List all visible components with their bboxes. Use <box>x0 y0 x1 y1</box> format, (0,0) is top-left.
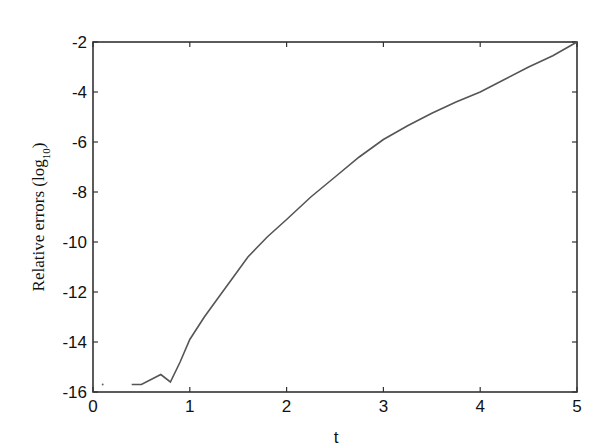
axes-frame <box>93 42 577 392</box>
x-tick-label: 5 <box>572 397 581 416</box>
plot-area <box>93 42 577 392</box>
x-tick-label: 0 <box>88 397 97 416</box>
annotations <box>102 384 104 386</box>
stray-dot <box>102 384 104 386</box>
relative-error-chart: -2-4-6-8-10-12-14-16 012345 t Relative e… <box>0 0 607 448</box>
x-tick-label: 3 <box>379 397 388 416</box>
x-tick-label: 1 <box>185 397 194 416</box>
y-tick-label: -6 <box>72 133 87 152</box>
y-tick-label: -12 <box>62 283 87 302</box>
x-tick-label: 2 <box>282 397 291 416</box>
y-tick-label: -4 <box>72 83 87 102</box>
y-tick-label: -14 <box>62 333 87 352</box>
x-axis: 012345 <box>88 42 581 416</box>
y-tick-label: -10 <box>62 233 87 252</box>
error-curve <box>132 42 577 385</box>
y-tick-label: -8 <box>72 183 87 202</box>
x-tick-label: 4 <box>475 397 484 416</box>
y-axis: -2-4-6-8-10-12-14-16 <box>62 33 577 402</box>
y-axis-label: Relative errors (log10) <box>29 143 52 292</box>
x-axis-label: t <box>334 428 339 447</box>
y-tick-label: -2 <box>72 33 87 52</box>
y-tick-label: -16 <box>62 383 87 402</box>
